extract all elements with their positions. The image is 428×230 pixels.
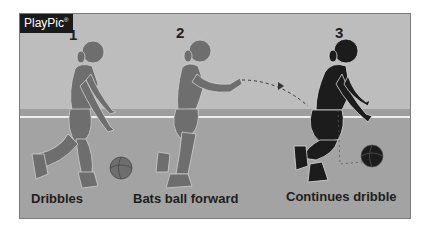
logo-text: PlayPic bbox=[24, 16, 64, 30]
playpic-logo: PlayPic® bbox=[20, 14, 73, 33]
step-1-caption: Dribbles bbox=[31, 191, 83, 206]
step-3-caption: Continues dribble bbox=[286, 189, 397, 204]
player-1-figure bbox=[32, 41, 116, 188]
arrowhead-icon bbox=[278, 82, 284, 90]
players-illustration bbox=[20, 14, 410, 218]
step-2-caption: Bats ball forward bbox=[133, 191, 238, 206]
ball-3 bbox=[361, 145, 383, 167]
logo-mark: ® bbox=[64, 17, 68, 23]
player-3-figure bbox=[294, 39, 372, 182]
step-3-number: 3 bbox=[335, 24, 343, 41]
trajectory-arrow bbox=[242, 80, 308, 106]
illustration-frame: PlayPic® 1 2 3 bbox=[19, 13, 411, 219]
step-2-number: 2 bbox=[176, 24, 184, 41]
player-2-figure bbox=[156, 40, 242, 188]
ball-1 bbox=[110, 157, 132, 179]
